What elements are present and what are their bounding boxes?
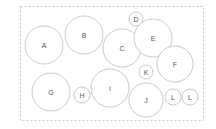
circle-node-j: J (129, 83, 163, 117)
circle-label: C (119, 45, 124, 52)
circle-label: F (173, 61, 177, 68)
circle-label: B (82, 32, 87, 39)
circle-label: J (144, 97, 148, 104)
circle-node-l: L (182, 89, 198, 105)
circle-label: K (144, 69, 149, 76)
circle-node-f: F (157, 46, 193, 82)
circle-label: L (171, 94, 175, 101)
circle-node-l: L (165, 89, 181, 105)
circle-node-g: G (32, 73, 70, 111)
circle-node-h: H (74, 87, 90, 103)
circle-label: G (48, 89, 53, 96)
circle-node-b: B (65, 16, 103, 54)
circle-label: D (133, 16, 138, 23)
circle-label: L (188, 94, 192, 101)
circle-label: I (109, 85, 111, 92)
circle-label: H (79, 92, 84, 99)
circle-node-i: I (91, 69, 129, 107)
circle-label: A (42, 42, 47, 49)
circle-node-k: K (139, 65, 153, 79)
circle-packing-diagram: ABCDEFGHIJKLL (0, 0, 216, 129)
circle-node-a: A (25, 26, 63, 64)
circle-group: ABCDEFGHIJKLL (25, 12, 198, 117)
circle-label: E (151, 35, 156, 42)
